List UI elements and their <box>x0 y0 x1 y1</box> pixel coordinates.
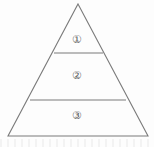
tier-label-1: ① <box>65 34 89 45</box>
tier-label-3: ③ <box>65 110 89 121</box>
tier-label-2: ② <box>65 70 89 81</box>
pyramid-diagram: ① ② ③ <box>0 0 154 147</box>
